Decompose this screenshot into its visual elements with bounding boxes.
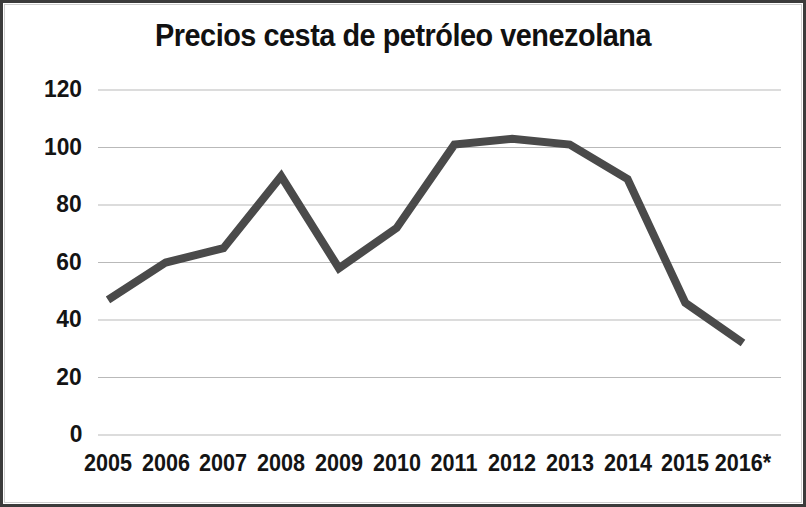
- line-chart-svg: [0, 0, 806, 507]
- y-tick-label: 120: [44, 75, 82, 103]
- y-tick-label: 20: [57, 363, 82, 391]
- y-tick-label: 60: [57, 248, 82, 276]
- x-tick-label: 2016*: [707, 449, 779, 477]
- y-tick-label: 0: [69, 420, 82, 448]
- plot-area: [0, 0, 806, 507]
- chart-image: Precios cesta de petróleo venezolana 020…: [0, 0, 806, 507]
- data-series-line: [108, 139, 743, 343]
- y-tick-label: 40: [57, 305, 82, 333]
- y-tick-label: 100: [44, 133, 82, 161]
- y-tick-label: 80: [57, 190, 82, 218]
- gridlines: [98, 90, 781, 435]
